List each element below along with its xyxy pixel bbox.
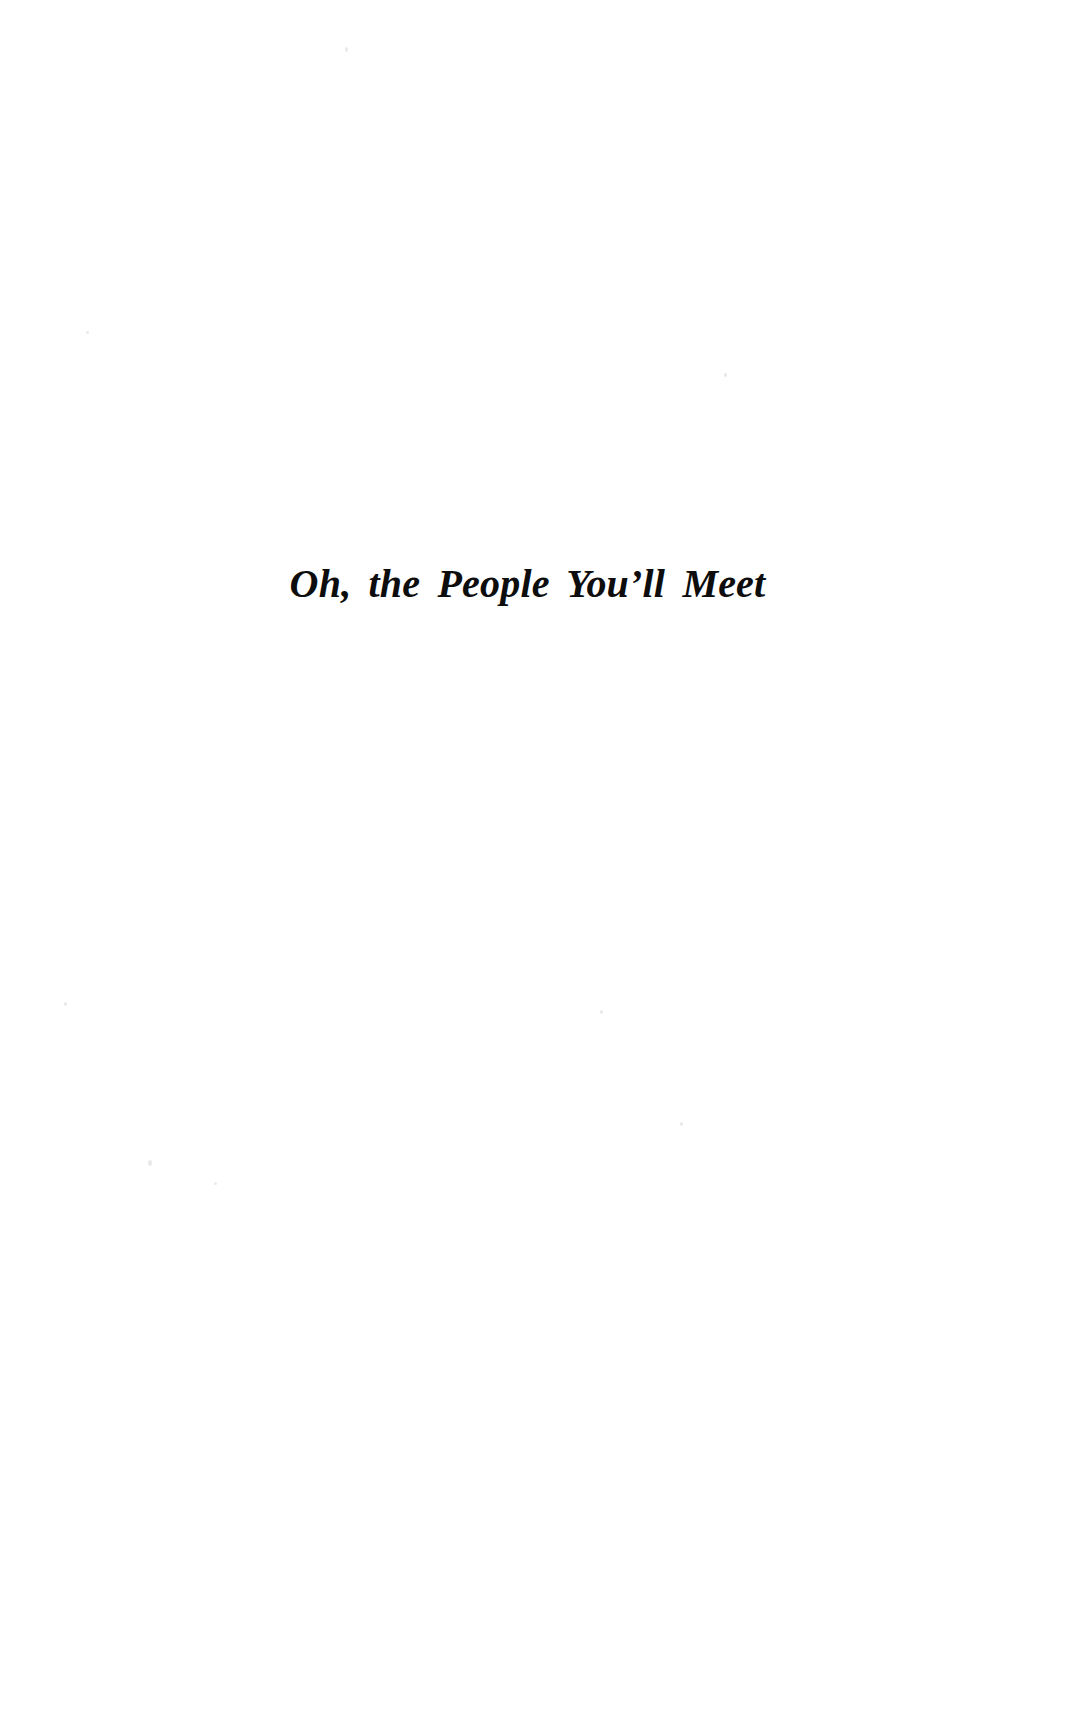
scan-speckle [680,1122,683,1126]
scan-speckle [148,1160,152,1166]
scan-speckle [64,1002,67,1006]
scan-speckle [214,1182,217,1185]
book-page: Oh, the People You’ll Meet [0,0,1083,1725]
part-title: Oh, the People You’ll Meet [290,560,766,607]
scan-speckle [600,1010,603,1014]
part-title-block: Oh, the People You’ll Meet [0,0,1083,634]
